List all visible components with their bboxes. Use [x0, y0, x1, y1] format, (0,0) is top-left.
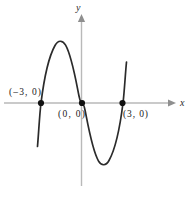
cubic-graph-figure: (–3, 0) (0, 0) (3, 0) y x [0, 0, 191, 198]
x-axis-arrowhead-icon [168, 99, 176, 106]
point-marker-left-root [38, 100, 44, 106]
x-axis-label: x [179, 97, 185, 108]
graph-canvas: (–3, 0) (0, 0) (3, 0) y x [0, 0, 191, 198]
label-origin: (0, 0) [58, 109, 85, 120]
point-marker-origin [79, 100, 85, 106]
y-axis-label: y [75, 2, 81, 13]
y-axis-arrowhead-icon [78, 14, 85, 22]
label-right-root: (3, 0) [123, 109, 148, 120]
point-marker-right-root [119, 100, 125, 106]
label-left-root: (–3, 0) [9, 87, 41, 98]
